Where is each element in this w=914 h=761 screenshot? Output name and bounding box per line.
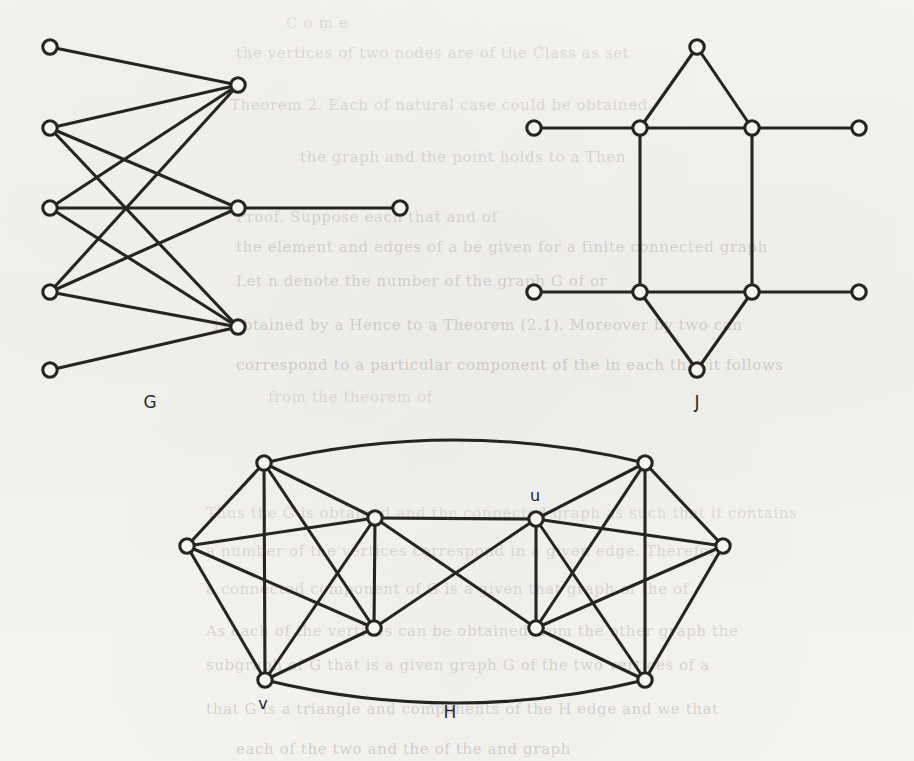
graph-node (852, 121, 866, 135)
graph-node (368, 511, 382, 525)
graph-edge (187, 518, 375, 546)
figure-label-g: G (143, 392, 156, 412)
graph-node (690, 40, 704, 54)
graph-node (745, 121, 759, 135)
graph-node (638, 456, 652, 470)
graph-node (43, 40, 57, 54)
graph-edge (187, 546, 265, 680)
graph-edge (536, 463, 645, 519)
graph-node (393, 201, 407, 215)
graph-node (529, 621, 543, 635)
graph-edge (640, 292, 697, 370)
graph-nodes-layer (43, 40, 866, 687)
graph-edge (265, 680, 645, 703)
graph-edge (645, 463, 723, 546)
graph-edge (697, 47, 752, 128)
graph-node (257, 456, 271, 470)
graph-edge (374, 518, 375, 628)
graph-node (527, 285, 541, 299)
graph-figures-canvas (0, 0, 914, 761)
graph-node (633, 285, 647, 299)
graph-node (745, 285, 759, 299)
figure-page: C o m ethe vertices of two nodes are of … (0, 0, 914, 761)
graph-node (43, 363, 57, 377)
graph-edge (50, 47, 238, 85)
graph-edge (264, 440, 645, 463)
figure-label-j: J (694, 392, 699, 412)
graph-node-u (529, 512, 543, 526)
graph-edge (645, 546, 723, 680)
graph-node (638, 673, 652, 687)
graph-node (231, 201, 245, 215)
vertex-label-u: u (530, 486, 540, 505)
graph-edge (536, 519, 723, 546)
graph-node (527, 121, 541, 135)
graph-node-v (258, 673, 272, 687)
graph-edge (187, 463, 264, 546)
graph-node (43, 201, 57, 215)
graph-node (43, 121, 57, 135)
graph-edge (50, 208, 238, 292)
graph-edge (265, 518, 375, 680)
graph-node (180, 539, 194, 553)
graph-node (231, 78, 245, 92)
graph-edge (50, 128, 238, 208)
figure-label-h: H (444, 702, 457, 722)
graph-edge (640, 47, 697, 128)
graph-node (633, 121, 647, 135)
graph-node (367, 621, 381, 635)
graph-edges-layer (50, 47, 859, 703)
graph-edge (375, 518, 536, 519)
graph-node (231, 320, 245, 334)
graph-edge (50, 85, 238, 128)
graph-edge (264, 463, 265, 680)
graph-node (43, 285, 57, 299)
graph-node (716, 539, 730, 553)
graph-edge (697, 292, 752, 370)
vertex-label-v: v (258, 694, 267, 713)
graph-edge (50, 327, 238, 370)
graph-node (852, 285, 866, 299)
graph-node (690, 363, 704, 377)
